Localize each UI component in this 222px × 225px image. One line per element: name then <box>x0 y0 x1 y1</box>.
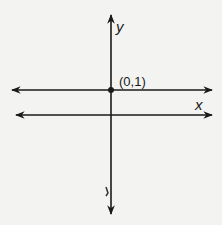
coordinate-plane-figure: y (0,1) x <box>0 0 222 225</box>
coordinate-plane-graphic <box>0 0 222 225</box>
x-axis-label: x <box>195 97 203 112</box>
point-0-1-dot <box>108 87 114 93</box>
scan-artifact-mark <box>106 187 108 196</box>
y-axis-label: y <box>116 19 124 34</box>
point-0-1-label: (0,1) <box>119 75 146 88</box>
